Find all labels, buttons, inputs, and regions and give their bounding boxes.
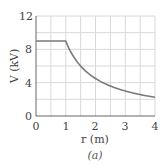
grid-lines bbox=[36, 16, 155, 116]
x-axis-label: r (m) bbox=[81, 133, 109, 146]
x-tick-4: 4 bbox=[152, 120, 159, 133]
chart-figure: 0 4 8 12 0 1 2 3 4 r (m) V (kV) (a) bbox=[0, 0, 165, 168]
x-tick-3: 3 bbox=[122, 120, 129, 133]
y-tick-12: 12 bbox=[19, 10, 33, 23]
y-tick-0: 0 bbox=[25, 110, 32, 123]
y-tick-labels: 0 4 8 12 bbox=[19, 10, 33, 123]
figure-caption: (a) bbox=[87, 149, 102, 162]
x-tick-labels: 0 1 2 3 4 bbox=[33, 120, 159, 133]
x-tick-2: 2 bbox=[92, 120, 99, 133]
x-tick-0: 0 bbox=[33, 120, 40, 133]
y-axis-label: V (kV) bbox=[8, 49, 21, 85]
x-tick-1: 1 bbox=[63, 120, 70, 133]
y-tick-4: 4 bbox=[25, 77, 32, 90]
y-tick-8: 8 bbox=[25, 43, 32, 56]
